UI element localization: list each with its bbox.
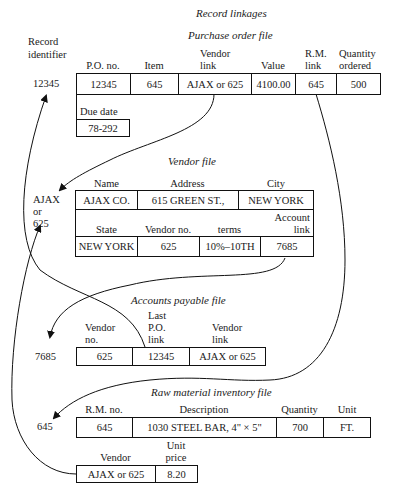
link-po-rm-to-rm-file — [54, 94, 345, 418]
link-rm-vendor-to-vendor-file — [12, 226, 76, 474]
linkage-arrows — [0, 0, 394, 498]
link-ap-last-po-to-po-file — [24, 96, 145, 347]
link-po-vendor-to-vendor-file — [60, 94, 214, 190]
link-vendor-account-to-ap-file — [50, 258, 285, 337]
